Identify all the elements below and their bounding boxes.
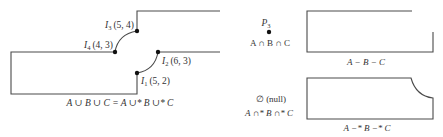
null-result: ∅ (null) (256, 94, 286, 104)
regularized-difference-outline (307, 78, 433, 119)
set-operations-diagram: I3(5, 4) I4(4, 3) I2(6, 3) I1(5, 2) A ∪ … (0, 0, 443, 137)
arc-i1-i2 (137, 52, 158, 73)
union-caption: A ∪ B ∪ C = A ∪* B ∪* C (66, 98, 175, 108)
point-p3 (267, 30, 271, 34)
union-lower-outline (11, 52, 137, 94)
label-i4: I4(4, 3) (83, 40, 113, 51)
regularized-difference-caption: A −* B −* C (343, 123, 392, 133)
point-i1 (135, 71, 139, 75)
intersection-caption: A ∩ B ∩ C (250, 38, 290, 48)
difference-figure: A − B − C (307, 11, 433, 67)
label-i3: I3(5, 4) (104, 20, 134, 31)
label-i2: I2(6, 3) (161, 56, 191, 67)
regularized-intersection-figure: ∅ (null) A ∩* B ∩* C (244, 94, 294, 118)
point-i2 (156, 50, 160, 54)
difference-outline-top (307, 11, 433, 52)
label-i1: I1(5, 2) (140, 76, 170, 87)
union-upper-outline (137, 11, 220, 31)
point-i4 (113, 50, 117, 54)
regularized-difference-figure: A −* B −* C (307, 78, 433, 133)
regularized-intersection-caption: A ∩* B ∩* C (244, 108, 294, 118)
intersection-figure: P3 A ∩ B ∩ C (250, 18, 290, 48)
union-figure: I3(5, 4) I4(4, 3) I2(6, 3) I1(5, 2) A ∪ … (11, 11, 220, 108)
difference-caption: A − B − C (346, 57, 386, 67)
arc-i4-i3 (115, 31, 137, 52)
label-p3: P3 (260, 18, 270, 29)
point-i3 (135, 29, 139, 33)
